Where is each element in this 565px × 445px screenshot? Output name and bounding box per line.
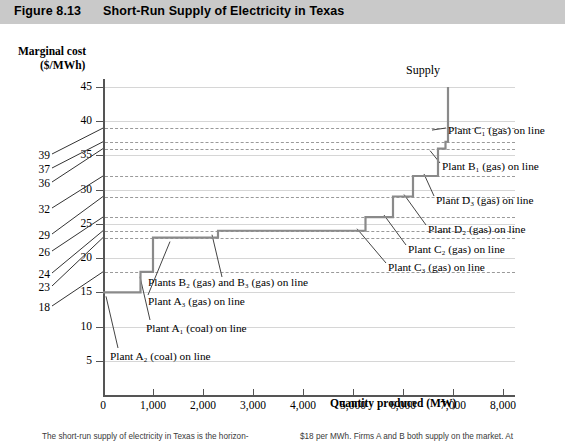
- annotation-plant-c2: Plant C₂ (gas) on line: [408, 243, 505, 255]
- caption-column-right: $18 per MWh. Firms A and B both supply o…: [300, 432, 513, 441]
- annotation-plant-c3: Plant C₃ (gas) on line: [388, 261, 485, 273]
- figure-header-text: Figure 8.13Short-Run Supply of Electrici…: [14, 4, 344, 18]
- supply-curve-label: Supply: [406, 63, 440, 78]
- figure-header-bar: Figure 8.13Short-Run Supply of Electrici…: [0, 0, 565, 24]
- annotation-plant-b1: Plant B₁ (gas) on line: [442, 160, 539, 172]
- annotation-plant-a2: Plant A₂ (coal) on line: [110, 350, 211, 362]
- annotation-plant-c1: Plant C₁ (gas) on line: [448, 124, 545, 136]
- annotation-plant-d3: Plant D₃ (gas) on line: [436, 194, 533, 206]
- annotation-plant-a3: Plant A₃ (gas) on line: [148, 295, 245, 307]
- figure-number: Figure 8.13: [14, 4, 81, 18]
- caption-column-left: The short-run supply of electricity in T…: [42, 432, 248, 441]
- figure-caption: The short-run supply of electricity in T…: [0, 432, 565, 445]
- annotation-plant-d2: Plant D₂ (gas) on line: [428, 223, 525, 235]
- figure-title: Short-Run Supply of Electricity in Texas: [103, 4, 344, 18]
- chart-plot-area: Marginal cost ($/MWh) Quantity produced …: [0, 27, 565, 427]
- annotation-plant-b2-b3: Plants B₂ (gas) and B₃ (gas) on line: [148, 276, 308, 288]
- annotation-plant-a1: Plant A₁ (coal) on line: [146, 322, 247, 334]
